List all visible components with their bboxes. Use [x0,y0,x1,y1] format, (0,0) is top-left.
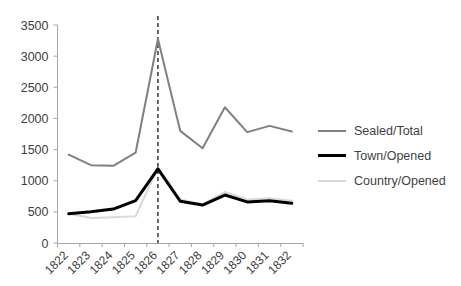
y-axis-tick-labels: 0500100015002000250030003500 [21,19,49,251]
y-axis-tick-label: 1000 [21,174,49,188]
y-axis-tick-label: 1500 [21,143,49,157]
legend-label-sealed-total: Sealed/Total [354,124,423,138]
x-axis-tick-label: 1826 [131,248,160,277]
x-axis-tick-label: 1824 [87,248,116,277]
y-axis-tick-label: 0 [42,237,49,251]
y-axis-tick-label: 2500 [21,81,49,95]
line-chart: 0500100015002000250030003500 18221823182… [0,0,461,286]
y-axis-tick-label: 3000 [21,50,49,64]
legend-item-town-opened[interactable]: Town/Opened [318,143,458,168]
legend-item-sealed-total[interactable]: Sealed/Total [318,118,458,143]
legend-swatch-town-opened [318,154,346,157]
chart-legend: Sealed/Total Town/Opened Country/Opened [318,118,458,193]
legend-label-town-opened: Town/Opened [354,149,431,163]
legend-label-country-opened: Country/Opened [354,174,446,188]
x-axis-tick-labels: 1822182318241825182618271828182918301831… [42,248,294,277]
x-axis-tick-label: 1829 [198,248,227,277]
x-axis-tick-label: 1828 [176,248,205,277]
y-axis-ticks [54,25,58,243]
x-axis-tick-label: 1830 [221,248,250,277]
legend-swatch-country-opened [318,180,346,182]
x-axis-tick-label: 1825 [109,248,138,277]
x-axis-tick-label: 1827 [154,248,183,277]
series-line-town-opened [69,169,292,214]
x-axis-tick-label: 1822 [42,248,71,277]
y-axis-tick-label: 2000 [21,112,49,126]
x-axis-tick-label: 1831 [243,248,272,277]
legend-swatch-sealed-total [318,130,346,132]
x-axis-tick-label: 1832 [265,248,294,277]
y-axis-tick-label: 500 [28,205,49,219]
legend-item-country-opened[interactable]: Country/Opened [318,168,458,193]
x-axis-tick-label: 1823 [64,248,93,277]
y-axis-tick-label: 3500 [21,19,49,33]
series-line-sealed-total [69,39,292,166]
chart-series-lines [69,39,292,218]
